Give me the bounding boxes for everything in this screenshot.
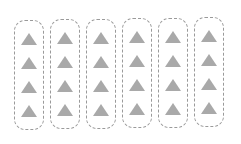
triangle-icon — [201, 102, 217, 114]
triangle-icon — [93, 104, 109, 116]
dashed-group-box — [158, 18, 188, 128]
triangle-icon — [165, 55, 181, 67]
triangle-icon — [57, 104, 73, 116]
triangle-icon — [93, 56, 109, 68]
dashed-group-box — [122, 18, 152, 128]
triangle-icon — [21, 105, 37, 117]
dashed-group-box — [14, 20, 44, 130]
triangle-icon — [129, 55, 145, 67]
triangle-icon — [93, 32, 109, 44]
triangle-icon — [129, 103, 145, 115]
triangle-icon — [129, 79, 145, 91]
triangle-icon — [21, 81, 37, 93]
triangle-icon — [57, 32, 73, 44]
triangle-icon — [201, 54, 217, 66]
triangle-icon — [21, 57, 37, 69]
dashed-group-box — [50, 19, 80, 129]
triangle-icon — [165, 31, 181, 43]
triangle-icon — [93, 80, 109, 92]
triangle-icon — [57, 56, 73, 68]
triangle-icon — [201, 78, 217, 90]
triangle-icon — [165, 79, 181, 91]
triangle-icon — [21, 33, 37, 45]
triangle-icon — [165, 103, 181, 115]
triangle-icon — [57, 80, 73, 92]
triangle-icon — [201, 30, 217, 42]
dashed-group-box — [194, 17, 224, 127]
triangle-icon — [129, 31, 145, 43]
dashed-group-box — [86, 19, 116, 129]
